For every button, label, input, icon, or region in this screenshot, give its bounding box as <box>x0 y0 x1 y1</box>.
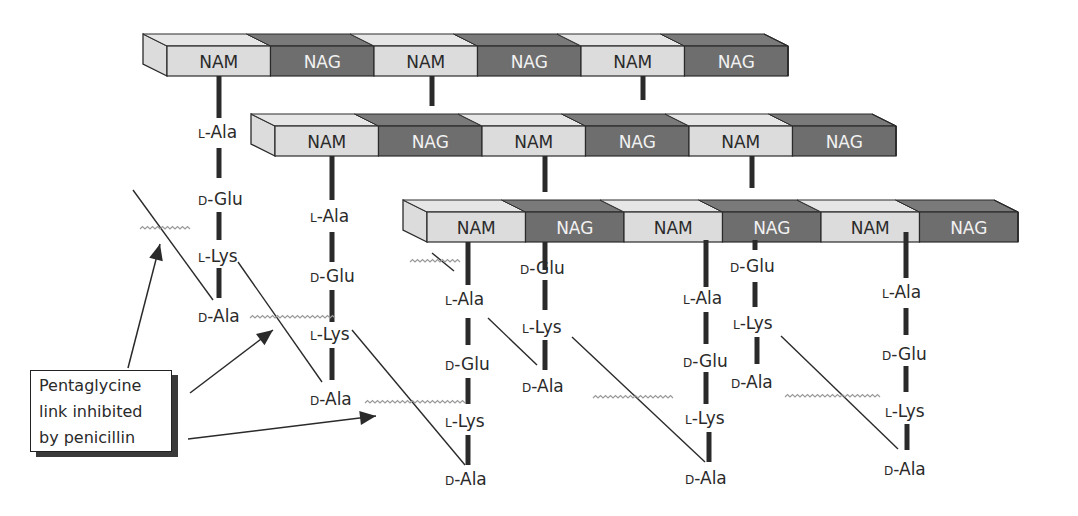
nam-label: NAM <box>457 218 496 238</box>
arrowhead-icon <box>359 411 376 425</box>
callout-line-1: Pentaglycine <box>39 373 171 399</box>
pentaglycine-link-wavy <box>250 316 335 319</box>
nag-label: NAG <box>511 52 548 72</box>
nag-label: NAG <box>753 218 790 238</box>
residue-label: D-Glu <box>882 344 927 364</box>
residue-label: L-Ala <box>198 122 237 142</box>
nam-label: NAM <box>199 52 238 72</box>
arrowhead-icon <box>256 330 273 345</box>
pentaglycine-link-wavy <box>140 227 190 230</box>
callout-box: Pentaglycine link inhibited by penicilli… <box>30 370 172 452</box>
residue-label: D-Ala <box>522 376 564 396</box>
crosslink-line <box>781 336 898 449</box>
callout-line-3: by penicillin <box>39 425 171 451</box>
pentaglycine-link-wavy <box>410 260 460 263</box>
nag-label: NAG <box>304 52 341 72</box>
residue-label: L-Ala <box>882 282 921 302</box>
nam-label: NAM <box>514 132 553 152</box>
residue-label: D-Ala <box>198 306 240 326</box>
nag-label: NAG <box>619 132 656 152</box>
pentaglycine-link-wavy <box>593 396 673 399</box>
glycan-strand-3: NAMNAGNAMNAGNAMNAG <box>403 200 1018 242</box>
residue-label: L-Lys <box>310 324 350 344</box>
peptidoglycan-diagram: NAMNAGNAMNAGNAMNAGL-AlaD-GluL-LysD-AlaNA… <box>0 0 1078 516</box>
nag-label: NAG <box>556 218 593 238</box>
residue-label: D-Glu <box>683 351 728 371</box>
residue-label: D-Ala <box>310 389 352 409</box>
nam-label: NAM <box>613 52 652 72</box>
nam-label: NAM <box>654 218 693 238</box>
residue-label: L-Lys <box>198 246 238 266</box>
nag-label: NAG <box>826 132 863 152</box>
nag-label: NAG <box>412 132 449 152</box>
residue-label: L-Lys <box>733 313 773 333</box>
pentaglycine-link-wavy <box>365 401 465 404</box>
residue-label: L-Ala <box>445 289 484 309</box>
residue-label: D-Ala <box>731 372 773 392</box>
nam-label: NAM <box>721 132 760 152</box>
residue-label: L-Ala <box>310 206 349 226</box>
callout-line-2: link inhibited <box>39 399 171 425</box>
residue-label: D-Glu <box>445 354 490 374</box>
residue-label: D-Glu <box>198 189 243 209</box>
pentaglycine-link-wavy <box>785 395 880 398</box>
residue-label: L-Lys <box>685 408 725 428</box>
arrowhead-icon <box>149 244 163 261</box>
residue-label: D-Ala <box>884 459 926 479</box>
glycan-strand-2: NAMNAGNAMNAGNAMNAG <box>251 114 896 156</box>
residue-label: D-Ala <box>685 468 727 488</box>
residue-label: D-Glu <box>730 256 775 276</box>
residue-label: D-Glu <box>310 266 355 286</box>
nag-label: NAG <box>718 52 755 72</box>
nam-label: NAM <box>851 218 890 238</box>
residue-label: D-Ala <box>445 469 487 489</box>
nag-label: NAG <box>950 218 987 238</box>
residue-label: L-Lys <box>885 401 925 421</box>
glycan-strand-1: NAMNAGNAMNAGNAMNAG <box>143 34 788 76</box>
nam-label: NAM <box>406 52 445 72</box>
residue-label: D-Glu <box>520 258 565 278</box>
crosslink-line <box>352 330 465 465</box>
residue-label: L-Lys <box>445 411 485 431</box>
residue-label: L-Ala <box>683 288 722 308</box>
pointer-arrow <box>128 244 160 368</box>
nam-label: NAM <box>307 132 346 152</box>
residue-label: L-Lys <box>522 317 562 337</box>
pointer-arrow <box>188 416 376 439</box>
